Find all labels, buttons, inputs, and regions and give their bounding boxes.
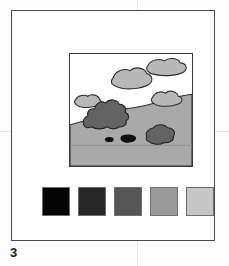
swatch-2 bbox=[78, 187, 106, 216]
grayscale-swatch-row bbox=[42, 187, 214, 218]
swatch-1 bbox=[42, 187, 70, 216]
spot-small-left bbox=[105, 137, 114, 142]
cloud-middle-right bbox=[151, 91, 182, 106]
figure-plate-border bbox=[11, 10, 215, 241]
swatch-4 bbox=[150, 187, 178, 216]
swatch-5 bbox=[186, 187, 214, 216]
swatch-3 bbox=[114, 187, 142, 216]
scene-frame bbox=[69, 53, 193, 167]
figure-caption-number: 3 bbox=[10, 245, 17, 260]
landscape-illustration-svg bbox=[70, 54, 192, 166]
